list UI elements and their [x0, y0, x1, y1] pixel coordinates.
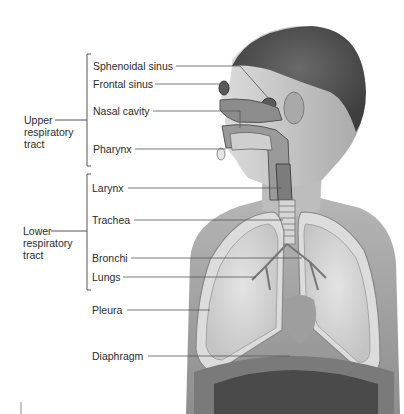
group-label-lower-respiratory-tract: Lower respiratory tract	[23, 225, 73, 261]
label-trachea: Trachea	[92, 214, 130, 226]
label-frontal-sinus: Frontal sinus	[93, 78, 153, 90]
label-nasal-cavity: Nasal cavity	[93, 105, 150, 117]
label-diaphragm: Diaphragm	[92, 350, 143, 362]
label-bronchi: Bronchi	[92, 252, 128, 264]
head	[217, 26, 366, 200]
label-pleura: Pleura	[92, 304, 122, 316]
upper-tract-bracket	[87, 54, 91, 166]
label-pharynx: Pharynx	[93, 143, 132, 155]
label-larynx: Larynx	[92, 182, 124, 194]
group-label-upper-respiratory-tract: Upper respiratory tract	[24, 114, 74, 150]
respiratory-illustration	[0, 0, 404, 414]
lower-tract-bracket	[87, 174, 91, 290]
label-lungs: Lungs	[92, 271, 121, 283]
label-sphenoidal-sinus: Sphenoidal sinus	[93, 60, 173, 72]
